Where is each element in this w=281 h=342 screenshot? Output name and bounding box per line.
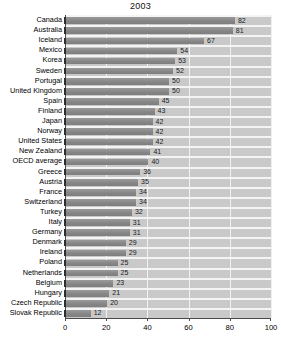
bar — [66, 128, 153, 135]
bar — [66, 189, 136, 196]
gridline-100 — [271, 15, 272, 318]
bar-value-label: 67 — [207, 36, 215, 46]
bar-value-label: 45 — [162, 96, 170, 106]
bar — [66, 199, 136, 206]
bar — [66, 48, 177, 55]
x-tick-label-0: 0 — [63, 322, 67, 333]
bar-value-label: 42 — [156, 117, 164, 127]
bar-value-label: 53 — [178, 56, 186, 66]
bar — [66, 17, 235, 24]
bar — [66, 290, 109, 297]
bar-value-label: 50 — [172, 76, 180, 86]
bar — [66, 240, 126, 247]
bar — [66, 27, 233, 34]
bar-value-label: 25 — [121, 258, 129, 268]
bar-value-label: 43 — [158, 106, 166, 116]
bar — [66, 280, 113, 287]
bar-value-label: 50 — [172, 86, 180, 96]
bar-value-label: 31 — [133, 228, 141, 238]
x-axis-line — [65, 318, 271, 319]
bar-value-label: 42 — [156, 137, 164, 147]
bar-value-label: 25 — [121, 268, 129, 278]
x-tick-label-100: 100 — [265, 322, 278, 333]
bar-value-label: 82 — [238, 16, 246, 26]
bar-value-label: 52 — [176, 66, 184, 76]
bar-rows: 8281675453525050454342424241403635343432… — [66, 15, 271, 318]
bar — [66, 250, 126, 257]
bar-value-label: 42 — [156, 127, 164, 137]
category-label: Slovak Republic — [0, 308, 62, 319]
x-tick-80 — [230, 318, 231, 321]
bar — [66, 169, 140, 176]
bar-value-label: 81 — [236, 26, 244, 36]
bar-value-label: 32 — [135, 207, 143, 217]
bar — [66, 149, 150, 156]
bar — [66, 179, 138, 186]
plot-area: 8281675453525050454342424241403635343432… — [65, 15, 271, 318]
bar — [66, 88, 169, 95]
bar — [66, 108, 155, 115]
bar-value-label: 23 — [116, 278, 124, 288]
bar — [66, 58, 175, 65]
chart-title: 2003 — [0, 0, 281, 13]
bar-value-label: 31 — [133, 218, 141, 228]
bar — [66, 209, 132, 216]
bar — [66, 159, 148, 166]
bar — [66, 310, 91, 317]
bar-value-label: 20 — [110, 298, 118, 308]
category-axis-labels: CanadaAustraliaIcelandMexicoKoreaSwedenP… — [0, 15, 62, 318]
x-tick-label-80: 80 — [226, 322, 234, 333]
bar — [66, 38, 204, 45]
x-tick-40 — [147, 318, 148, 321]
bar — [66, 118, 153, 125]
bar — [66, 229, 130, 236]
bar — [66, 300, 107, 307]
x-tick-label-20: 20 — [102, 322, 110, 333]
bar-chart: 2003 CanadaAustraliaIcelandMexicoKoreaSw… — [0, 0, 281, 342]
x-tick-0 — [65, 318, 66, 321]
bar-value-label: 29 — [129, 248, 137, 258]
x-tick-20 — [106, 318, 107, 321]
bar — [66, 98, 159, 105]
x-tick-100 — [270, 318, 271, 321]
bar-value-label: 12 — [94, 308, 102, 318]
bar-value-label: 21 — [112, 288, 120, 298]
bar — [66, 219, 130, 226]
x-tick-label-60: 60 — [184, 322, 192, 333]
bar-value-label: 36 — [143, 167, 151, 177]
bar-value-label: 35 — [141, 177, 149, 187]
bar-value-label: 34 — [139, 187, 147, 197]
bar — [66, 270, 118, 277]
bar-value-label: 40 — [151, 157, 159, 167]
bar-value-label: 54 — [180, 46, 188, 56]
bar — [66, 260, 118, 267]
bar-value-label: 29 — [129, 238, 137, 248]
bar — [66, 78, 169, 85]
x-tick-60 — [189, 318, 190, 321]
x-tick-label-40: 40 — [143, 322, 151, 333]
bar-value-label: 34 — [139, 197, 147, 207]
bar-value-label: 41 — [153, 147, 161, 157]
bar — [66, 68, 173, 75]
bar — [66, 139, 153, 146]
